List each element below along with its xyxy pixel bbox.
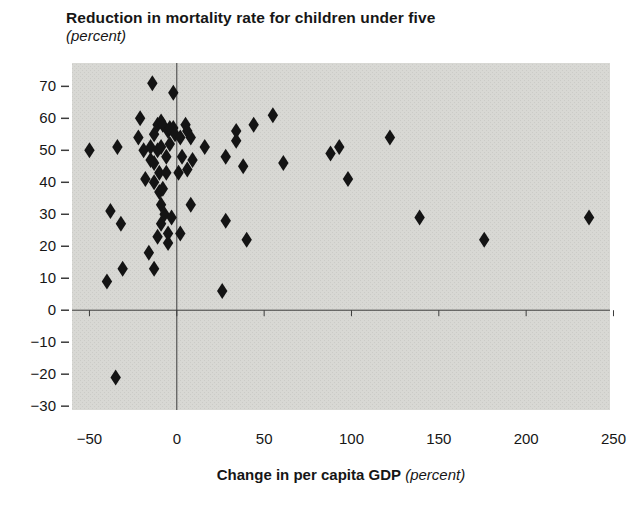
y-tick-label: 50 xyxy=(39,141,56,158)
y-tick-label: 0 xyxy=(48,301,56,318)
scatter-figure: Reduction in mortality rate for children… xyxy=(0,0,635,509)
y-tick-label: −30 xyxy=(31,397,56,414)
x-axis-title-unit: (percent) xyxy=(405,466,465,483)
y-tick-label: −20 xyxy=(31,365,56,382)
y-tick-label: 10 xyxy=(39,269,56,286)
x-axis-title: Change in per capita GDP (percent) xyxy=(72,466,610,483)
y-tick-label: 20 xyxy=(39,237,56,254)
y-tick-label: 60 xyxy=(39,109,56,126)
y-tick-label: 30 xyxy=(39,205,56,222)
y-tick-label: 70 xyxy=(39,77,56,94)
scatter-plot-canvas: −50050100150200250−30−20−100102030405060… xyxy=(0,0,635,509)
y-tick-label: −10 xyxy=(31,333,56,350)
x-axis-title-main: Change in per capita GDP xyxy=(217,466,401,483)
x-tick-label: 200 xyxy=(514,430,539,447)
x-tick-label: 100 xyxy=(339,430,364,447)
x-tick-label: 0 xyxy=(173,430,181,447)
y-tick-label: 40 xyxy=(39,173,56,190)
x-tick-label: 50 xyxy=(256,430,273,447)
x-tick-label: −50 xyxy=(77,430,102,447)
x-tick-label: 250 xyxy=(601,430,626,447)
x-tick-label: 150 xyxy=(426,430,451,447)
